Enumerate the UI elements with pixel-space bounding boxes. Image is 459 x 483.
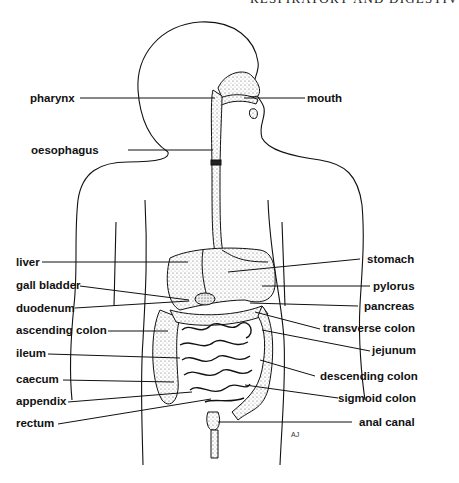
label-ileum: ileum <box>16 347 46 360</box>
label-descending-colon: descending colon <box>320 370 418 383</box>
artist-signature: AJ <box>291 431 299 438</box>
label-jejunum: jejunum <box>372 344 416 357</box>
label-pylorus: pylorus <box>373 280 415 293</box>
oesophagus-tube <box>211 90 226 262</box>
label-transverse-colon: transverse colon <box>323 322 415 335</box>
label-pancreas: pancreas <box>364 300 415 313</box>
label-oesophagus: oesophagus <box>31 144 99 157</box>
label-liver: liver <box>16 256 40 269</box>
label-appendix: appendix <box>16 395 66 408</box>
label-sigmoid-colon: sigmoid colon <box>338 392 416 405</box>
label-mouth: mouth <box>307 92 342 105</box>
pancreas-shape <box>195 293 215 305</box>
label-gall-bladder: gall bladder <box>16 279 81 292</box>
label-duodenum: duodenum <box>16 302 75 315</box>
head-cavity <box>216 72 260 119</box>
label-anal-canal: anal canal <box>359 416 415 429</box>
label-ascending-colon: ascending colon <box>16 324 107 337</box>
small-intestine <box>180 323 252 402</box>
label-caecum: caecum <box>16 373 59 386</box>
label-stomach: stomach <box>367 253 414 266</box>
label-pharynx: pharynx <box>30 92 75 105</box>
liver-stomach <box>167 248 275 310</box>
label-rectum: rectum <box>16 417 54 430</box>
